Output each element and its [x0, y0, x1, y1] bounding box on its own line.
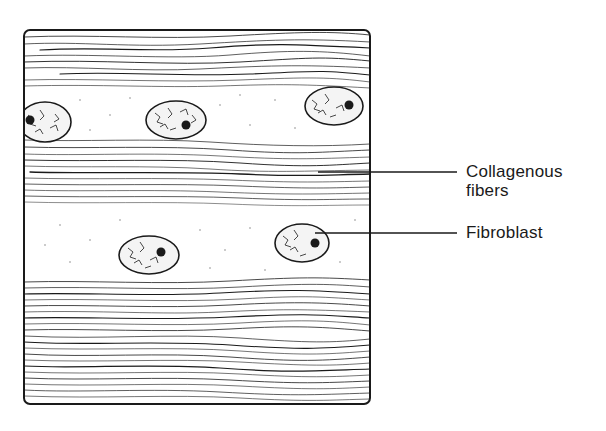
collagenous-fibers [24, 32, 370, 400]
fibroblast-label: Fibroblast [466, 223, 543, 242]
fibroblast-cell [305, 87, 363, 125]
fibroblast-cells [19, 87, 363, 274]
fibroblast-cell [275, 224, 329, 262]
tissue-illustration [0, 0, 606, 431]
collagenous-fibers-label-line2: fibers [466, 181, 563, 200]
fibroblast-cell [146, 101, 206, 139]
connective-tissue-diagram: Collagenous fibers Fibroblast [0, 0, 606, 431]
collagenous-fibers-label: Collagenous fibers [466, 162, 563, 200]
collagenous-fibers-label-line1: Collagenous [466, 162, 563, 181]
fibroblast-cell [119, 236, 179, 274]
fibroblast-cell [19, 102, 71, 142]
